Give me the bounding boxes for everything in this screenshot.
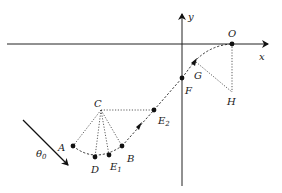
- point-B: [120, 144, 125, 149]
- point-F: [180, 76, 185, 81]
- label-F: F: [184, 85, 193, 96]
- label-E1: E1: [109, 161, 122, 174]
- label-C: C: [94, 98, 102, 109]
- label-B: B: [126, 153, 134, 164]
- label-G: G: [194, 70, 202, 81]
- segment-E2-F: [154, 78, 182, 110]
- direction-arrow-1: [136, 122, 142, 130]
- theta0-label: θ0: [36, 148, 47, 161]
- line-C-B: [101, 110, 122, 146]
- point-A: [71, 144, 76, 149]
- x-axis-label: x: [259, 51, 265, 62]
- point-D: [93, 155, 98, 160]
- physics-trajectory-diagram: x y θ0 C A D E1 B: [0, 0, 282, 193]
- label-E2: E2: [157, 115, 170, 128]
- point-O: [230, 42, 235, 47]
- label-H: H: [226, 96, 236, 107]
- arc-A-B: [73, 146, 122, 155]
- point-E1: [107, 153, 112, 158]
- arc-F-O: [182, 44, 232, 78]
- y-axis-label: y: [187, 11, 194, 22]
- label-O: O: [228, 28, 236, 39]
- point-E2: [152, 108, 157, 113]
- label-A: A: [57, 142, 65, 153]
- line-C-E1: [101, 110, 109, 155]
- label-D: D: [90, 164, 99, 175]
